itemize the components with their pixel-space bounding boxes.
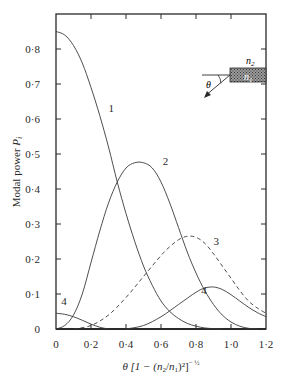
x-axis-title: θ [1 − (n2/n1)²]− ½ xyxy=(122,359,199,374)
plot-frame xyxy=(56,14,266,329)
y-tick-label: 0·3 xyxy=(25,218,40,230)
inset-n2-label: n2 xyxy=(246,55,255,68)
x-tick-label: 0·6 xyxy=(154,338,169,350)
curve-mode-2 xyxy=(56,162,257,329)
y-tick-label: 0·5 xyxy=(25,148,40,160)
y-tick-label: 0·1 xyxy=(25,288,40,300)
curve-label-3: 3 xyxy=(214,235,220,247)
curve-mode-4 xyxy=(56,313,109,329)
y-axis-title: Modal power Pi xyxy=(10,137,24,208)
curve-mode-1 xyxy=(56,32,222,330)
curve-label-4: 4 xyxy=(201,284,207,296)
x-tick-label: 1·2 xyxy=(259,338,274,350)
x-tick-label: 0·4 xyxy=(119,338,134,350)
y-tick-label: 0·4 xyxy=(25,183,40,195)
angle-arc xyxy=(218,75,221,83)
x-tick-label: 0 xyxy=(53,338,59,350)
x-tick-label: 0·2 xyxy=(84,338,99,350)
x-tick-label: 1·0 xyxy=(224,338,239,350)
y-tick-label: 0 xyxy=(35,323,41,335)
y-tick-label: 0·6 xyxy=(25,113,40,125)
inset-theta-label: θ xyxy=(206,79,211,90)
x-tick-label: 0·8 xyxy=(189,338,204,350)
modal-power-chart: 00·20·40·60·81·01·200·10·20·30·40·50·60·… xyxy=(0,0,281,384)
curve-label-1: 1 xyxy=(109,102,115,114)
y-tick-label: 0·7 xyxy=(25,78,40,90)
curve-mode-4 xyxy=(126,287,266,329)
fibre-inset-diagram: n2 n1 θ xyxy=(202,55,266,98)
axis-ticks xyxy=(56,14,266,329)
curve-label-2: 2 xyxy=(163,155,169,167)
curve-label-4: 4 xyxy=(61,295,67,307)
y-tick-label: 0·8 xyxy=(25,43,40,55)
y-tick-label: 0·2 xyxy=(25,253,40,265)
curve-labels: 12344 xyxy=(61,102,219,307)
curve-mode-3 xyxy=(74,236,267,329)
